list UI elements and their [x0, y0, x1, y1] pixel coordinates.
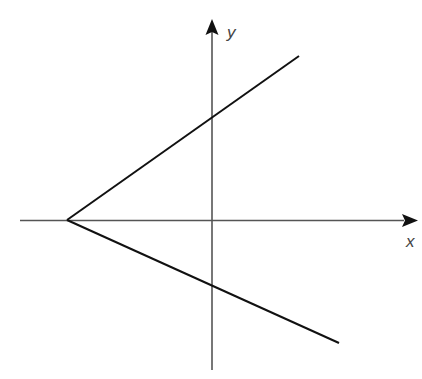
coordinate-diagram: y x: [0, 0, 422, 379]
x-axis-label: x: [405, 232, 415, 251]
y-axis-label: y: [226, 23, 237, 42]
x-axis-arrowhead-icon: [402, 214, 418, 227]
lower-line: [67, 220, 339, 343]
upper-line: [67, 56, 299, 220]
